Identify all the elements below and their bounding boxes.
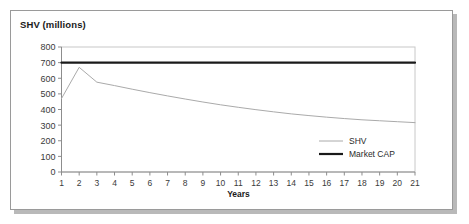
y-axis-tick-label: 700 [40, 58, 55, 68]
x-axis-tick-label: 20 [393, 178, 403, 188]
x-axis-tick-label: 6 [148, 178, 153, 188]
legend-label-shv: SHV [349, 136, 367, 146]
x-axis-tick-label: 13 [269, 178, 279, 188]
x-axis-tick-label: 9 [201, 178, 206, 188]
y-axis-tick-label: 0 [50, 167, 55, 177]
x-axis-tick-label: 7 [165, 178, 170, 188]
y-axis-tick-label: 100 [40, 152, 55, 162]
x-axis-tick-label: 12 [251, 178, 261, 188]
plot-area: 0100200300400500600700800123456789101112… [10, 10, 453, 210]
x-axis-tick-label: 17 [340, 178, 350, 188]
series-line-shv [62, 67, 416, 122]
x-axis-tick-label: 4 [112, 178, 117, 188]
y-axis-tick-label: 200 [40, 136, 55, 146]
y-axis-tick-label: 500 [40, 89, 55, 99]
x-axis-tick-label: 3 [94, 178, 99, 188]
x-axis-title: Years [0, 189, 469, 199]
x-axis-tick-label: 16 [322, 178, 332, 188]
x-axis-tick-label: 1 [59, 178, 64, 188]
x-axis-tick-label: 2 [77, 178, 82, 188]
x-axis-tick-label: 8 [183, 178, 188, 188]
x-axis-tick-label: 14 [287, 178, 297, 188]
x-axis-title-label: Years [219, 189, 250, 199]
x-axis-tick-label: 21 [410, 178, 420, 188]
x-axis-tick-label: 5 [130, 178, 135, 188]
y-axis-tick-label: 600 [40, 74, 55, 84]
x-axis-tick-label: 15 [304, 178, 314, 188]
x-axis-tick-label: 11 [234, 178, 243, 188]
y-axis-tick-label: 400 [40, 105, 55, 115]
chart-figure: SHV (millions) 0100200300400500600700800… [0, 0, 469, 224]
x-axis-tick-label: 10 [216, 178, 226, 188]
x-axis-tick-label: 18 [357, 178, 367, 188]
legend-label-market-cap: Market CAP [349, 149, 395, 159]
x-axis-tick-label: 19 [375, 178, 385, 188]
y-axis-tick-label: 300 [40, 121, 55, 131]
y-axis-tick-label: 800 [40, 42, 55, 52]
